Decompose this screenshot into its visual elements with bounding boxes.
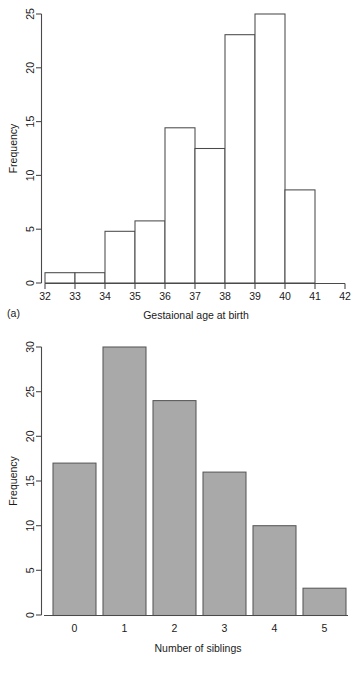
x-tick-label: 42 [339,290,351,302]
y-tick-label: 0 [24,280,36,286]
y-tick-label: 25 [24,8,36,20]
hist-bar [45,273,75,283]
x-tick-label: 2 [172,622,178,634]
x-tick-label: 35 [129,290,141,302]
y-axis-title-a: Frequency [7,123,19,173]
y-tick-label: 30 [24,341,36,353]
hist-bar [135,221,165,283]
x-tick-label: 32 [39,290,51,302]
y-tick-label: 10 [24,169,36,181]
histogram-panel-a: 0 5 10 15 20 25 Frequency [0,0,356,330]
y-ticks-b [36,347,42,615]
y-tick-label: 10 [24,520,36,532]
bars-b [53,347,346,616]
x-tick-label: 36 [159,290,171,302]
number-of-siblings-barchart-svg: 0 5 10 15 20 25 30 Frequency 0 1 2 3 4 5 [0,330,356,681]
bar [253,526,296,616]
x-tick-label: 5 [322,622,328,634]
bar [153,401,196,616]
x-tick-label: 4 [272,622,278,634]
x-tick-labels-b: 0 1 2 3 4 5 [72,622,328,634]
gestational-age-histogram-svg: 0 5 10 15 20 25 Frequency [0,0,356,330]
x-tick-label: 3 [222,622,228,634]
y-tick-label: 20 [24,430,36,442]
y-tick-label: 15 [24,475,36,487]
x-tick-label: 39 [249,290,261,302]
x-tick-label: 38 [219,290,231,302]
hist-bar [165,128,195,283]
x-axis-title-b: Number of siblings [155,642,242,654]
y-tick-labels-a: 0 5 10 15 20 25 [24,8,36,286]
x-ticks-a [45,284,345,290]
hist-bar [225,35,255,283]
y-tick-label: 15 [24,116,36,128]
x-tick-label: 34 [99,290,111,302]
y-tick-labels-b: 0 5 10 15 20 25 30 [24,341,36,618]
x-tick-label: 40 [279,290,291,302]
bar [303,588,346,615]
y-axis-title-b: Frequency [7,455,19,505]
y-ticks-a [36,14,42,283]
hist-bar [255,14,285,283]
y-tick-label: 20 [24,62,36,74]
y-tick-label: 5 [24,226,36,232]
hist-bar [285,190,315,283]
hist-bar [105,231,135,283]
histogram-bars-a [45,14,315,283]
x-tick-label: 1 [122,622,128,634]
hist-bar [75,273,105,283]
barchart-panel-b: 0 5 10 15 20 25 30 Frequency 0 1 2 3 4 5 [0,330,356,681]
hist-bar [195,149,225,284]
y-tick-label: 0 [24,612,36,618]
x-tick-label: 37 [189,290,201,302]
x-tick-labels-a: 32 33 34 35 36 37 38 39 40 41 42 [39,290,351,302]
bar [53,463,96,615]
x-tick-label: 0 [72,622,78,634]
y-tick-label: 5 [24,567,36,573]
bar [103,347,146,616]
x-axis-title-a: Gestaional age at birth [143,309,249,321]
y-tick-label: 25 [24,386,36,398]
x-tick-label: 41 [309,290,321,302]
x-tick-label: 33 [69,290,81,302]
bar [203,472,246,615]
panel-label-a: (a) [7,307,20,319]
